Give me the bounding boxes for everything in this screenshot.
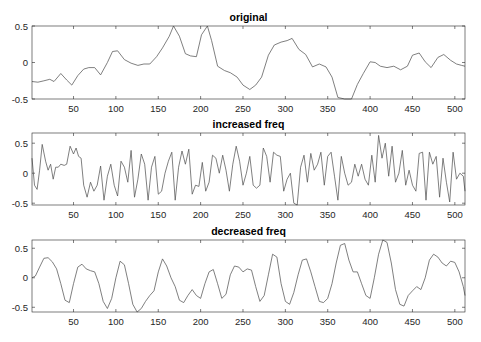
signal-line xyxy=(32,135,465,205)
x-tick-label: 500 xyxy=(447,103,463,114)
axes-box xyxy=(32,26,465,99)
subplot-title: increased freq xyxy=(213,118,285,130)
x-tick-label: 300 xyxy=(277,103,293,114)
x-tick-label: 400 xyxy=(362,103,378,114)
x-tick-label: 450 xyxy=(405,103,421,114)
x-tick-label: 200 xyxy=(193,316,209,327)
y-tick-label: -0.5 xyxy=(12,302,28,313)
y-tick-label: 0 xyxy=(23,57,28,68)
x-tick-label: 350 xyxy=(320,316,336,327)
x-tick-label: 100 xyxy=(108,209,124,220)
x-tick-label: 450 xyxy=(405,209,421,220)
signal-line xyxy=(32,26,465,99)
x-tick-label: 250 xyxy=(235,103,251,114)
x-tick-label: 400 xyxy=(362,316,378,327)
axes-box xyxy=(32,133,465,205)
subplot-title: original xyxy=(230,11,268,23)
axis-ticks: 50100150200250300350400450500-0.500.5 xyxy=(12,133,465,220)
x-tick-label: 100 xyxy=(108,316,124,327)
x-tick-label: 350 xyxy=(320,103,336,114)
y-tick-label: -0.5 xyxy=(12,94,28,105)
x-tick-label: 150 xyxy=(150,103,166,114)
subplot-title: decreased freq xyxy=(211,225,286,237)
x-tick-label: 100 xyxy=(108,103,124,114)
y-tick-label: -0.5 xyxy=(12,198,28,209)
y-tick-label: 0 xyxy=(23,272,28,283)
x-tick-label: 50 xyxy=(68,209,79,220)
x-tick-label: 250 xyxy=(235,316,251,327)
x-tick-label: 450 xyxy=(405,316,421,327)
x-tick-label: 150 xyxy=(150,316,166,327)
x-tick-label: 300 xyxy=(277,316,293,327)
x-tick-label: 500 xyxy=(447,209,463,220)
x-tick-label: 200 xyxy=(193,209,209,220)
x-tick-label: 250 xyxy=(235,209,251,220)
subplot-original: original 50100150200250300350400450500-0… xyxy=(12,11,465,114)
figure-canvas: original 50100150200250300350400450500-0… xyxy=(0,0,481,342)
axis-ticks: 50100150200250300350400450500-0.500.5 xyxy=(12,240,465,327)
x-tick-label: 50 xyxy=(68,316,79,327)
y-tick-label: 0.5 xyxy=(15,21,28,32)
x-tick-label: 150 xyxy=(150,209,166,220)
y-tick-label: 0.5 xyxy=(15,243,28,254)
subplot-increased-freq: increased freq 5010015020025030035040045… xyxy=(12,118,465,220)
y-tick-label: 0.5 xyxy=(15,138,28,149)
x-tick-label: 400 xyxy=(362,209,378,220)
x-tick-label: 200 xyxy=(193,103,209,114)
axes-box xyxy=(32,240,465,312)
x-tick-label: 350 xyxy=(320,209,336,220)
subplot-decreased-freq: decreased freq 5010015020025030035040045… xyxy=(12,225,465,327)
axis-ticks: 50100150200250300350400450500-0.500.5 xyxy=(12,21,465,115)
signal-line xyxy=(32,240,465,312)
x-tick-label: 500 xyxy=(447,316,463,327)
x-tick-label: 300 xyxy=(277,209,293,220)
x-tick-label: 50 xyxy=(68,103,79,114)
y-tick-label: 0 xyxy=(23,168,28,179)
